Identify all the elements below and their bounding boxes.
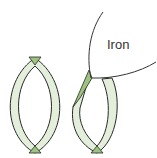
diagram-canvas bbox=[0, 0, 157, 158]
iron-label: Iron bbox=[107, 37, 129, 52]
contact-wedge bbox=[73, 70, 92, 107]
deformed-ring bbox=[72, 70, 117, 153]
undeformed-ring bbox=[10, 57, 60, 153]
